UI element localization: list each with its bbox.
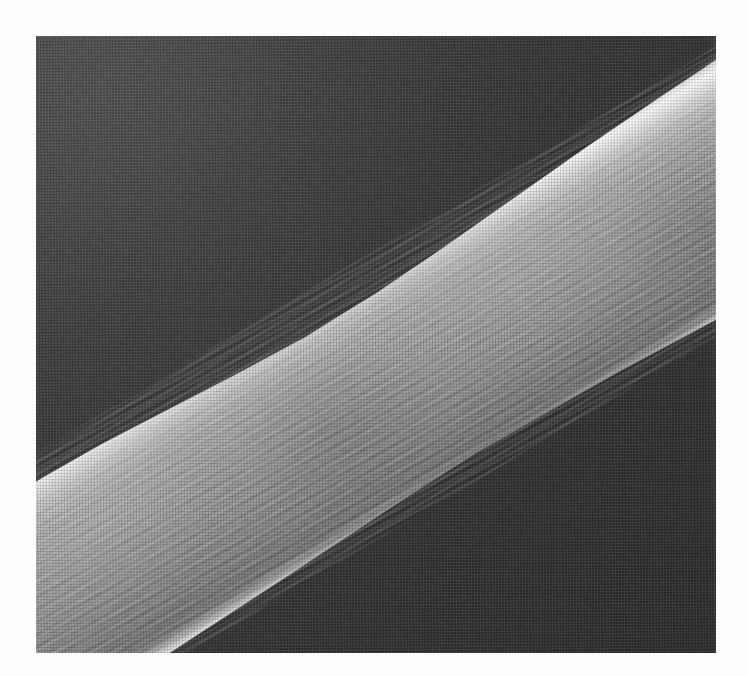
page (0, 0, 748, 676)
sem-micrograph-plate (36, 36, 716, 653)
plate-inner (36, 36, 716, 653)
halftone-screen-light (36, 36, 716, 653)
